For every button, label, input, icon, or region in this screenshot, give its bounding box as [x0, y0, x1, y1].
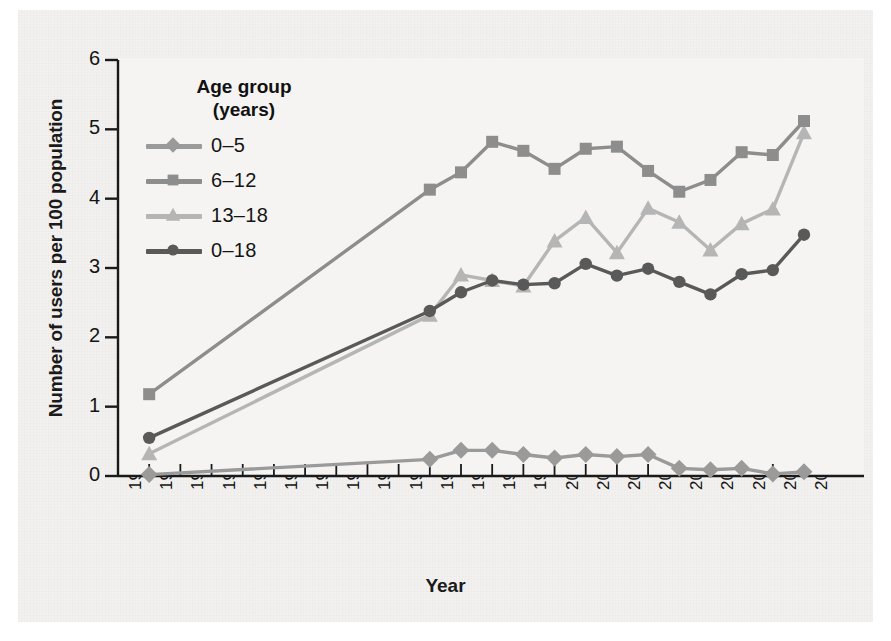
data-point [424, 184, 436, 196]
legend-swatch-circle-icon [146, 241, 202, 261]
figure-root: Number of users per 100 population Year … [0, 0, 891, 641]
data-point [166, 207, 180, 220]
data-point [548, 277, 560, 289]
data-point [735, 268, 747, 280]
chart-plot [0, 0, 891, 641]
data-point [517, 145, 529, 157]
data-point [143, 388, 155, 400]
data-point [611, 141, 623, 153]
data-point [580, 258, 592, 270]
legend-title-line2: (years) [144, 99, 344, 121]
legend-swatch-diamond-icon [146, 136, 202, 156]
legend-swatch-triangle-icon [146, 206, 202, 226]
data-point [143, 432, 155, 444]
data-point [165, 137, 180, 152]
data-point [642, 165, 654, 177]
legend-item-0-5[interactable]: 0–5 [146, 134, 245, 157]
data-point [167, 244, 178, 255]
data-point [704, 174, 716, 186]
data-point [736, 146, 748, 158]
data-point [486, 274, 498, 286]
data-point [673, 276, 685, 288]
data-point [798, 229, 810, 241]
data-point [580, 143, 592, 155]
legend-item-13-18[interactable]: 13–18 [146, 204, 268, 227]
legend-item-0-18[interactable]: 0–18 [146, 239, 257, 262]
legend-label: 6–12 [211, 169, 257, 192]
legend-label: 0–5 [211, 134, 245, 157]
data-point [455, 286, 467, 298]
legend-label: 0–18 [211, 239, 257, 262]
legend-item-6-12[interactable]: 6–12 [146, 169, 257, 192]
legend-title-line1: Age group [144, 76, 344, 98]
legend-label: 13–18 [211, 204, 268, 227]
data-point [486, 136, 498, 148]
data-point [767, 149, 779, 161]
data-point [517, 278, 529, 290]
data-point [424, 305, 436, 317]
data-point [798, 115, 810, 127]
data-point [611, 269, 623, 281]
data-point [549, 163, 561, 175]
data-point [704, 288, 716, 300]
data-point [168, 174, 179, 185]
data-point [673, 186, 685, 198]
data-point [767, 264, 779, 276]
data-point [642, 262, 654, 274]
legend-swatch-square-icon [146, 171, 202, 191]
data-point [455, 166, 467, 178]
